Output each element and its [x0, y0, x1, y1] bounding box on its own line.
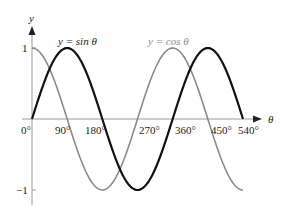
x-tick-label: 90° — [55, 124, 70, 136]
y-tick-label-neg1: −1 — [16, 184, 28, 196]
x-tick-label: 0° — [21, 124, 31, 136]
y-tick-label-1: 1 — [22, 42, 28, 54]
x-axis-arrow-icon — [253, 116, 262, 123]
cos-annotation-theta: θ — [183, 35, 189, 47]
x-tick-label: 270° — [139, 124, 160, 136]
x-tick-label: 360° — [175, 124, 196, 136]
trig-chart: y θ 1 −1 0° 90° 180° 270° 360° 450° 540°… — [0, 0, 287, 215]
x-tick-label: 450° — [211, 124, 232, 136]
x-tick-label: 540° — [238, 124, 259, 136]
x-axis-label: θ — [268, 113, 274, 125]
sin-annotation: y = sin θ — [57, 35, 97, 47]
y-axis-label: y — [28, 12, 34, 24]
x-tick-label: 180° — [85, 124, 106, 136]
sin-annotation-theta: θ — [91, 35, 97, 47]
cos-annotation: y = cos θ — [147, 35, 189, 47]
sin-annotation-text: y = sin — [57, 35, 91, 47]
y-axis-arrow-icon — [29, 26, 36, 35]
cos-annotation-text: y = cos — [147, 35, 183, 47]
